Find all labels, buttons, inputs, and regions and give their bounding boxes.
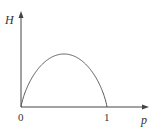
x-axis-arrow-icon xyxy=(142,105,149,110)
x-axis-label: p xyxy=(140,113,147,127)
y-axis-arrow-icon xyxy=(19,11,24,18)
y-axis-label: H xyxy=(4,13,15,27)
x-tick-1: 1 xyxy=(104,111,110,123)
entropy-chart: H 0 1 p xyxy=(0,0,155,128)
entropy-curve xyxy=(21,54,107,107)
origin-label: 0 xyxy=(18,111,24,123)
